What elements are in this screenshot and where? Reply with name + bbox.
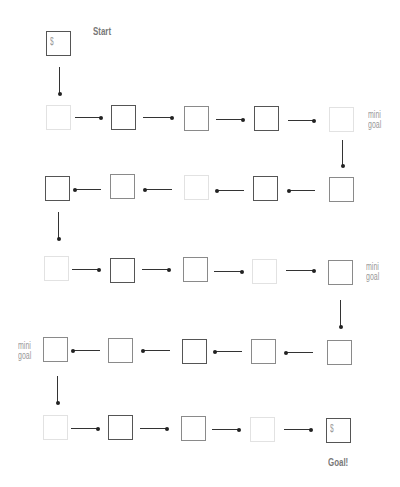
- space-r4-4: [251, 339, 276, 364]
- space-r2-4: [253, 176, 278, 201]
- arrow-right: [212, 429, 240, 430]
- mini-goal-text-2: goal: [366, 271, 379, 282]
- space-r4-1-mini-goal: [43, 337, 68, 362]
- space-r2-3: [184, 175, 209, 200]
- space-r5-4: [250, 417, 275, 442]
- mini-goal-label: minigoal: [366, 262, 379, 282]
- space-r1-1: [46, 105, 71, 130]
- arrow-down: [340, 300, 341, 328]
- arrow-down: [58, 212, 59, 240]
- arrow-left: [214, 351, 242, 352]
- space-r2-2: [110, 174, 135, 199]
- space-r1-3: [184, 106, 209, 131]
- arrow-down: [342, 140, 343, 167]
- arrow-down: [59, 67, 60, 95]
- space-r3-5-mini-goal: [328, 260, 353, 285]
- dollar-sign-icon: $: [330, 423, 334, 434]
- space-r1-4: [254, 106, 279, 131]
- space-r4-5: [327, 340, 352, 365]
- space-r5-3: [181, 416, 206, 441]
- mini-goal-label: minigoal: [18, 341, 31, 361]
- arrow-left: [142, 350, 170, 351]
- arrow-right: [142, 269, 170, 270]
- arrow-right: [214, 271, 243, 272]
- arrow-left: [74, 189, 101, 190]
- arrow-right: [288, 120, 315, 121]
- mini-goal-text-2: goal: [368, 119, 381, 130]
- goal-label: Goal!: [328, 457, 348, 468]
- arrow-left: [288, 190, 315, 191]
- mini-goal-label: minigoal: [368, 110, 381, 130]
- space-r5-1: [43, 415, 68, 440]
- start-label: Start: [93, 26, 111, 37]
- space-r3-2: [110, 258, 135, 283]
- arrow-right: [75, 117, 102, 118]
- space-r3-1: [44, 256, 69, 281]
- arrow-down: [57, 376, 58, 404]
- arrow-right: [71, 428, 99, 429]
- space-r4-3: [182, 339, 207, 364]
- arrow-left: [144, 189, 172, 190]
- space-r2-5: [329, 177, 354, 202]
- arrow-right: [72, 269, 100, 270]
- goal-box: $: [326, 418, 351, 443]
- arrow-right: [284, 429, 312, 430]
- arrow-right: [286, 270, 315, 271]
- space-r5-2: [108, 415, 133, 440]
- arrow-right: [140, 428, 168, 429]
- mini-goal-text-2: goal: [18, 350, 31, 361]
- space-r1-2: [111, 105, 136, 130]
- space-r2-1: [45, 176, 70, 201]
- start-box: $: [46, 31, 71, 56]
- arrow-left: [216, 190, 244, 191]
- space-r4-2: [108, 338, 133, 363]
- arrow-right: [143, 117, 173, 118]
- space-r3-3: [183, 257, 208, 282]
- space-r1-5-mini-goal: [329, 107, 354, 132]
- arrow-right: [216, 119, 244, 120]
- dollar-sign-icon: $: [50, 36, 54, 47]
- space-r3-4: [252, 259, 277, 284]
- arrow-left: [72, 350, 100, 351]
- board-game-path-diagram: $ Start minigoal minigoal minigoal: [0, 0, 400, 487]
- arrow-left: [285, 352, 313, 353]
